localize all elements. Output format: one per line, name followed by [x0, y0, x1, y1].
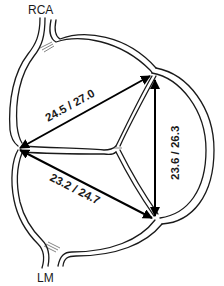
measurement-label-top-left: 24.5 / 27.0 [43, 87, 96, 124]
rca-label: RCA [28, 3, 53, 17]
arrow-bottom-left [20, 150, 152, 218]
right-coronary-sinus [10, 18, 156, 146]
measurement-label-right: 23.6 / 26.3 [169, 126, 181, 180]
arrow-top-left [20, 76, 150, 148]
left-coronary-sinus [12, 150, 162, 268]
aortic-valve-diagram: RCA LM 24.5 / 27.0 23.6 / 26.3 23.2 / 24… [0, 0, 224, 286]
lm-label: LM [37, 271, 54, 285]
non-coronary-sinus [152, 68, 214, 224]
